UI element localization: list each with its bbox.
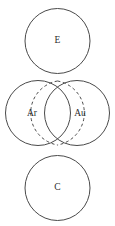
label-set-au: Au: [74, 108, 86, 118]
label-set-c: C: [54, 182, 60, 192]
venn-diagram: E Ar Au C: [0, 0, 115, 226]
venn-diagram-canvas: E Ar Au C: [0, 0, 115, 226]
label-set-e: E: [55, 35, 61, 45]
circle-set-ar: [6, 81, 71, 146]
label-set-ar: Ar: [27, 108, 38, 118]
